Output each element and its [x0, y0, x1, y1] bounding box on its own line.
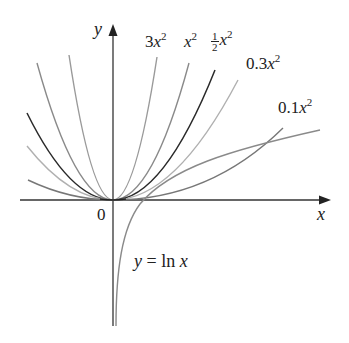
label-3x2-exp: 2: [161, 30, 167, 42]
curve-half-x2: [27, 70, 215, 200]
label-half-x2-base: x: [220, 30, 228, 49]
origin-label: 0: [97, 206, 106, 223]
label-03x2-exp: 2: [275, 52, 281, 64]
label-half-x2: 12x2: [211, 29, 233, 52]
label-3x2-text: 3x2: [145, 32, 167, 51]
label-01x2-base: 0.1x: [278, 98, 307, 117]
label-03x2-base: 0.3x: [246, 54, 275, 73]
label-ln-x-var: x: [180, 251, 188, 271]
y-axis-arrow-icon: [109, 24, 118, 36]
x-axis-label: x: [317, 205, 325, 223]
curve-03x2: [27, 80, 238, 200]
parabola-family-plot: [0, 0, 349, 343]
label-3x2-base: 3x: [145, 32, 161, 51]
fraction-numerator: 1: [211, 31, 219, 42]
curve-ln-x: [116, 130, 320, 326]
label-01x2-exp: 2: [307, 96, 313, 108]
variable-x: x: [267, 54, 275, 73]
label-x2: x2: [184, 31, 197, 50]
label-01x2: 0.1x2: [278, 97, 312, 116]
y-axis-label: y: [94, 20, 102, 38]
label-ln-y: y: [134, 251, 142, 271]
label-3x2: 3x2: [145, 31, 167, 50]
label-x2-exp: 2: [192, 30, 198, 42]
variable-x: x: [154, 32, 162, 51]
label-03x2: 0.3x2: [246, 53, 280, 72]
variable-x: x: [299, 98, 307, 117]
label-ln-x: y = ln x: [134, 252, 188, 270]
fraction-denominator: 2: [211, 42, 219, 52]
label-half-x2-exp: 2: [227, 28, 233, 40]
label-x2-base: x: [184, 32, 192, 51]
fraction-one-half: 12: [211, 31, 219, 52]
label-ln-eq: = ln: [142, 251, 180, 271]
